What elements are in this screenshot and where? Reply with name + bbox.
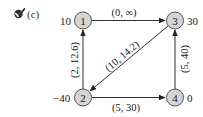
node-1-supply: 10	[60, 15, 72, 27]
edge-label-3-2: (10, 14.2)	[103, 38, 143, 74]
node-3-label: 3	[172, 15, 178, 27]
node-2-label: 2	[80, 92, 86, 104]
node-4-label: 4	[172, 92, 178, 104]
node-4-supply: 0	[187, 92, 193, 104]
node-2: 2 −40	[53, 89, 92, 106]
network-flow-diagram: (c) (0, ∞) (2, 12.6) (10, 14.2) (5, 30) …	[0, 0, 203, 117]
part-label: (c)	[27, 8, 40, 21]
edge-label-2-1: (2, 12.6)	[69, 42, 81, 78]
node-1-label: 1	[80, 15, 86, 27]
edge-label-1-3: (0, ∞)	[112, 7, 137, 19]
node-2-supply: −40	[53, 92, 71, 104]
edge-3-2	[90, 26, 168, 91]
node-3-supply: 30	[187, 15, 199, 27]
edge-label-4-3: (5, 40)	[179, 45, 191, 73]
node-1: 1 10	[60, 12, 92, 29]
node-4: 4 0	[167, 89, 194, 106]
edge-label-2-4: (5, 30)	[112, 102, 140, 114]
checkmark-icon	[14, 9, 24, 18]
node-3: 3 30	[167, 12, 199, 29]
